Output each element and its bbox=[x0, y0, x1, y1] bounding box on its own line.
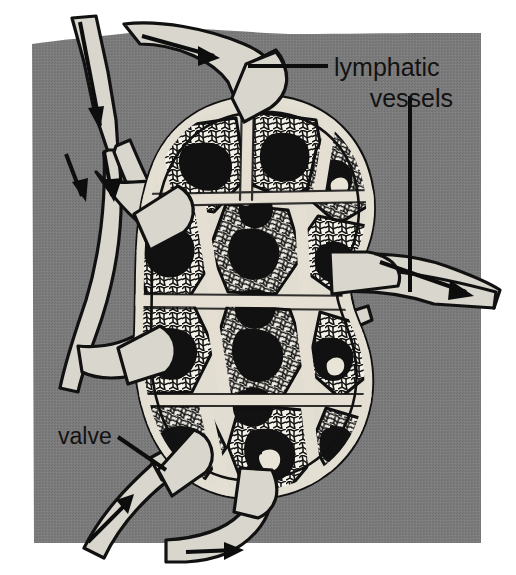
afferent-entry-bottom bbox=[234, 468, 277, 518]
lymph-node-diagram: lymphatic vessels valve bbox=[0, 0, 516, 575]
node-interior bbox=[128, 96, 376, 500]
valve-label: valve bbox=[58, 423, 112, 449]
lymphatic-vessels-label-line1: lymphatic bbox=[334, 53, 440, 81]
efferent-exit-hilum bbox=[330, 252, 400, 294]
lymph-node bbox=[128, 96, 376, 500]
lymph-node-figure: lymphatic vessels valve bbox=[0, 0, 516, 575]
lymphatic-vessels-label-line2: vessels bbox=[370, 84, 453, 112]
